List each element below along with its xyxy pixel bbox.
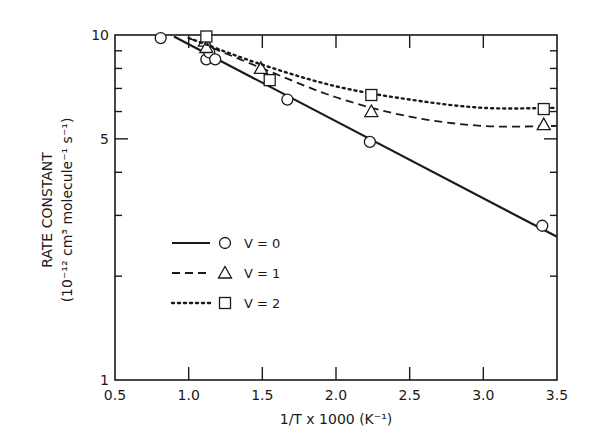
series-v1	[189, 35, 557, 130]
circle-marker	[155, 33, 166, 44]
y-tick-label: 10	[91, 27, 109, 43]
legend: V = 0V = 1V = 2	[172, 236, 280, 311]
circle-marker	[282, 94, 293, 105]
x-tick-label: 2.0	[325, 387, 347, 403]
x-axis-title: 1/T x 1000 (K⁻¹)	[280, 411, 393, 427]
circle-marker	[364, 136, 375, 147]
legend-label: V = 0	[244, 236, 280, 251]
x-tick-label: 1.5	[251, 387, 273, 403]
legend-item: V = 1	[172, 266, 280, 281]
square-marker	[201, 31, 212, 42]
x-tick-label: 3.5	[546, 387, 568, 403]
square-marker	[264, 75, 275, 86]
circle-marker	[220, 238, 231, 249]
legend-label: V = 1	[244, 266, 280, 281]
legend-label: V = 2	[244, 296, 280, 311]
plot-axes: 0.51.01.52.02.53.03.51510	[91, 27, 568, 403]
data-series	[155, 31, 557, 237]
square-marker	[366, 90, 377, 101]
y-axis-title-line1: RATE CONSTANT	[39, 152, 55, 268]
x-tick-label: 1.0	[178, 387, 200, 403]
x-tick-label: 0.5	[104, 387, 126, 403]
triangle-marker	[365, 105, 378, 117]
rate-constant-chart: 0.51.01.52.02.53.03.51510 V = 0V = 1V = …	[0, 0, 598, 445]
x-tick-label: 3.0	[472, 387, 494, 403]
triangle-marker	[537, 118, 550, 130]
triangle-marker	[219, 267, 232, 279]
circle-marker	[210, 54, 221, 65]
x-tick-label: 2.5	[399, 387, 421, 403]
y-axis-title: RATE CONSTANT (10⁻¹² cm³ molecule⁻¹ s⁻¹)	[39, 118, 75, 303]
legend-item: V = 2	[172, 296, 280, 311]
y-tick-label: 1	[100, 372, 109, 388]
y-tick-label: 5	[100, 131, 109, 147]
fit-line	[174, 37, 557, 237]
square-marker	[220, 298, 231, 309]
series-v0	[155, 33, 557, 237]
circle-marker	[537, 220, 548, 231]
legend-item: V = 0	[172, 236, 280, 251]
square-marker	[538, 104, 549, 115]
y-axis-title-line2: (10⁻¹² cm³ molecule⁻¹ s⁻¹)	[59, 118, 75, 303]
